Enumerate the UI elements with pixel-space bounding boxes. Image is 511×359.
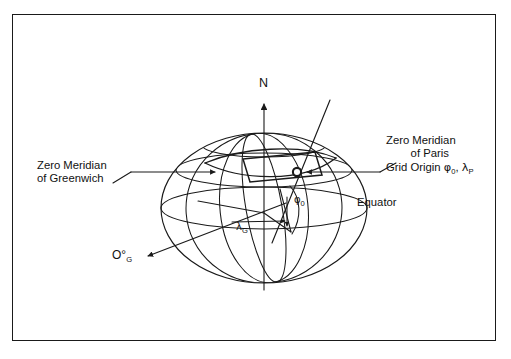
- equator-label: Equator: [357, 196, 397, 209]
- zero-degrees-symbol: O°: [112, 248, 126, 262]
- paris-label-line2: of Paris: [386, 147, 474, 160]
- greenwich-leader-elbow: [113, 172, 131, 183]
- grid-origin-marker: [293, 168, 301, 176]
- greenwich-label-line2: of Greenwich: [37, 172, 107, 185]
- angle-phi-0-label: φ0: [294, 194, 305, 209]
- greenwich-label-line1: Zero Meridian: [37, 159, 107, 172]
- angle-ray-lambda-left: [198, 201, 264, 213]
- north-axis-label: N: [259, 76, 268, 91]
- zero-meridian-greenwich-label: Zero Meridian of Greenwich: [37, 159, 107, 186]
- phi-0-symbol: φ: [294, 194, 301, 205]
- phi-0-subscript: 0: [301, 199, 305, 208]
- paris-label-line1: Zero Meridian: [386, 134, 474, 147]
- zero-degrees-subscript: G: [126, 255, 132, 264]
- grid-origin-label: Grid Origin φ0, λP: [386, 161, 474, 177]
- grid-origin-lambda-subscript: P: [468, 167, 473, 176]
- zero-degrees-greenwich-label: O°G: [112, 248, 132, 265]
- angle-lambda-g-label: λG: [236, 221, 248, 236]
- zero-meridian-paris-label: Zero Meridian of Paris Grid Origin φ0, λ…: [386, 134, 474, 177]
- diagram-page: N Equator Zero Meridian of Greenwich Zer…: [0, 0, 511, 359]
- grid-origin-text: Grid Origin: [386, 161, 444, 173]
- lambda-g-subscript: G: [242, 226, 248, 235]
